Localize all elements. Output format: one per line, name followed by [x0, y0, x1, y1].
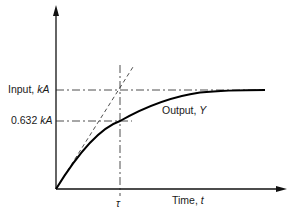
tau-level-var: kA — [40, 114, 52, 126]
time-label-text: Time, — [172, 194, 201, 206]
time-axis-label: Time, t — [172, 194, 204, 206]
input-label-text: Input, — [8, 83, 37, 95]
output-label-var: Y — [199, 104, 206, 116]
x-axis-arrow-icon — [276, 186, 287, 192]
tau-level-label: 0.632 kA — [11, 114, 52, 126]
step-response-chart — [0, 0, 291, 213]
output-label: Output, Y — [162, 104, 206, 116]
y-axis-arrow-icon — [53, 5, 59, 16]
output-label-text: Output, — [162, 104, 199, 116]
tau-level-text: 0.632 — [11, 114, 40, 126]
input-level-label: Input, kA — [8, 83, 49, 95]
time-label-var: t — [201, 194, 204, 206]
tau-tick-label: τ — [116, 197, 120, 209]
input-label-var: kA — [37, 83, 49, 95]
tau-symbol: τ — [116, 197, 120, 209]
